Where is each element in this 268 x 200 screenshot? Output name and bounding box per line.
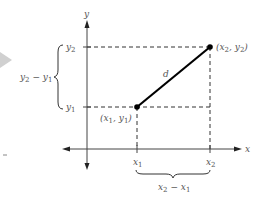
vertical-brace [54, 45, 63, 109]
distance-diagram: y x d y2 y1 x1 x2 (x1, y1) (x2, y2) y2 −… [0, 0, 268, 200]
point-2-dot [207, 44, 213, 50]
x-axis-label: x [245, 144, 250, 154]
edge-triangle-decoration [0, 52, 12, 68]
point-1-label: (x1, y1) [100, 113, 132, 125]
y-axis-label: y [83, 9, 90, 19]
y-axis [85, 20, 90, 170]
tick-label-y1: y1 [65, 102, 76, 114]
segment-label-d: d [163, 69, 169, 79]
x-axis [62, 147, 242, 152]
y-axis-up-arrow-icon [85, 20, 90, 28]
tick-label-x1: x1 [133, 157, 143, 169]
x-axis-left-arrow-icon [62, 147, 70, 152]
x-axis-right-arrow-icon [234, 147, 242, 152]
y-axis-down-arrow-icon [85, 163, 90, 170]
point-1-dot [134, 104, 140, 110]
horizontal-brace [136, 170, 210, 178]
horizontal-brace-label: x2 − x1 [158, 182, 190, 194]
tick-label-x2: x2 [206, 157, 216, 169]
vertical-brace-label: y2 − y1 [19, 72, 52, 84]
distance-segment [137, 47, 210, 107]
point-2-label: (x2, y2) [216, 42, 248, 54]
tick-label-y2: y2 [65, 42, 76, 54]
